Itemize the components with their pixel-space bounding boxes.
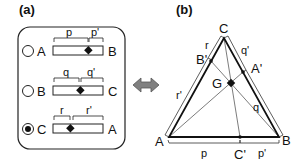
- diagram-canvas: (a) A p p' B B q q' C C r r' A (b): [0, 0, 306, 165]
- point-a-prime-label: A': [251, 61, 262, 76]
- double-arrow-icon: [133, 78, 159, 92]
- radio-selected-dot: [25, 126, 31, 132]
- row-bc-right-label: C: [108, 84, 117, 99]
- segment-q-label: q: [253, 101, 259, 113]
- row-ab-right-label: B: [108, 44, 117, 59]
- segment-r-prime-label: r': [176, 89, 182, 101]
- point-b-prime-label: B': [196, 52, 207, 67]
- radio-button-ab[interactable]: [23, 46, 34, 57]
- point-b-prime: [209, 59, 213, 63]
- row-ca-seg1: r: [60, 104, 64, 116]
- row-ab-bar: [53, 46, 103, 55]
- vertex-b-label: B: [282, 133, 291, 148]
- row-ab-seg1: p: [66, 26, 72, 38]
- row-ab-seg2: p': [91, 26, 99, 38]
- triangle-diagram: [165, 36, 283, 143]
- panel-b-label: (b): [176, 2, 193, 17]
- segment-p-label: p: [201, 147, 207, 159]
- row-bc-seg1: q: [63, 66, 69, 78]
- segment-q-prime-label: q': [241, 44, 249, 56]
- row-ca-right-label: A: [108, 122, 117, 137]
- row-ca-seg2: r': [86, 104, 92, 116]
- bracket-cb: [224, 36, 283, 137]
- row-ca-left-label: C: [37, 122, 46, 137]
- panel-a-label: (a): [19, 2, 35, 17]
- row-bc-seg2: q': [87, 66, 95, 78]
- vertex-c-label: C: [219, 21, 228, 36]
- radio-button-bc[interactable]: [23, 86, 34, 97]
- row-ca-bar: [53, 124, 103, 133]
- vertex-a-label: A: [155, 134, 164, 149]
- bracket-ab: [168, 140, 279, 143]
- point-c-prime: [238, 135, 242, 139]
- segment-r-label: r: [205, 39, 209, 51]
- point-a-prime: [241, 70, 245, 74]
- point-c-prime-label: C': [234, 147, 246, 162]
- row-bc-left-label: B: [37, 84, 46, 99]
- segment-p-prime-label: p': [258, 147, 266, 159]
- row-ab-left-label: A: [37, 44, 46, 59]
- point-g-label: G: [212, 76, 222, 91]
